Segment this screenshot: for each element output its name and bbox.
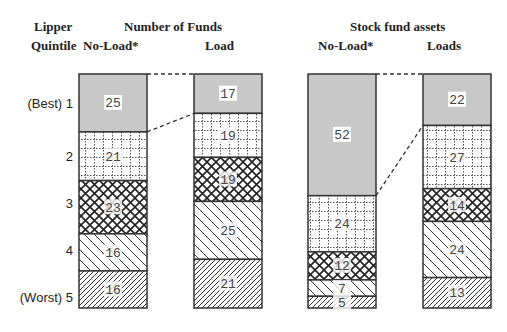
segment-value-label: 21 (105, 150, 121, 165)
segment-value-label: 16 (105, 283, 121, 298)
segment-value-label: 22 (449, 93, 465, 108)
segment-value-label: 24 (334, 217, 350, 232)
connector-q1-boundary (147, 113, 194, 132)
segment-value-label: 16 (105, 246, 121, 261)
segment-value-label: 24 (449, 243, 465, 258)
segment-value-label: 19 (220, 173, 236, 188)
segment-value-label: 5 (338, 296, 346, 311)
segment-value-label: 17 (220, 87, 236, 102)
segment-value-label: 23 (105, 201, 121, 216)
segment-value-label: 14 (449, 199, 465, 214)
stacked-bar-chart: 25212316161719192521522412752227142413 (0, 0, 507, 332)
connector-q1-boundary (376, 125, 423, 195)
segment-value-label: 12 (334, 259, 350, 274)
segment-value-label: 19 (220, 129, 236, 144)
segment-value-label: 21 (220, 277, 236, 292)
segment-value-label: 25 (105, 96, 121, 111)
segment-value-label: 25 (220, 224, 236, 239)
segment-value-label: 27 (449, 151, 465, 166)
segment-value-label: 13 (449, 286, 465, 301)
segment-value-label: 52 (334, 128, 350, 143)
